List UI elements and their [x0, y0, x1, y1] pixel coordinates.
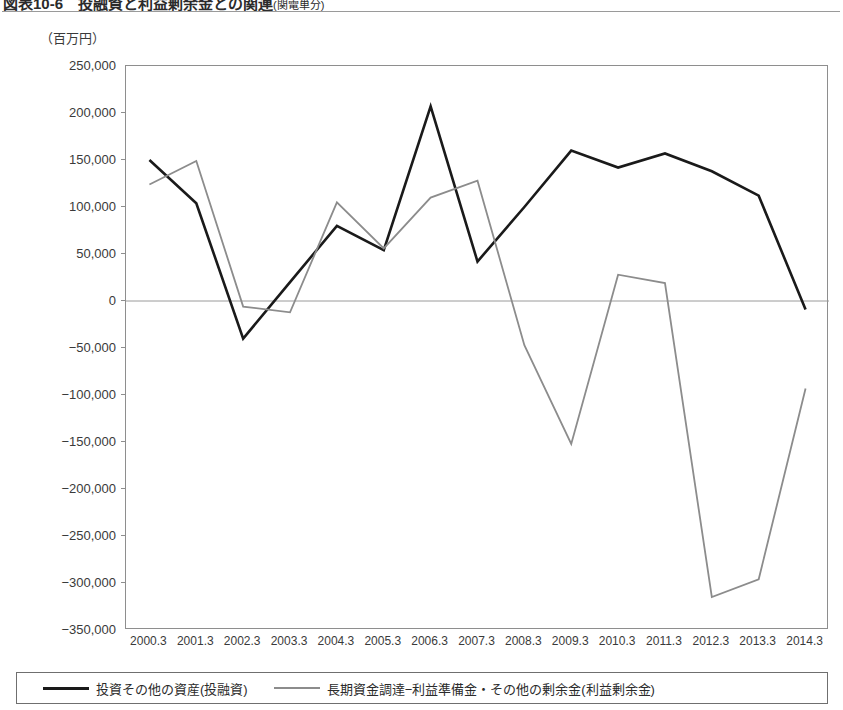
y-tick-label: 200,000	[30, 105, 116, 120]
chart-lines	[126, 66, 829, 630]
plot-area	[125, 65, 828, 629]
y-tick-label: −100,000	[30, 387, 116, 402]
y-tick-label: 50,000	[30, 246, 116, 261]
figure-title-strip: 図表10-6 投融資と利益剰余金との関連(関電単分)	[0, 0, 843, 11]
page-title: 図表10-6 投融資と利益剰余金との関連(関電単分)	[3, 0, 324, 11]
x-tick-label: 2000.3	[130, 634, 167, 648]
y-tick-label: 0	[30, 293, 116, 308]
y-tick-label: 150,000	[30, 152, 116, 167]
y-tick-label: −150,000	[30, 434, 116, 449]
series-line-1	[149, 161, 805, 597]
x-tick-label: 2001.3	[177, 634, 214, 648]
x-tick-label: 2006.3	[411, 634, 448, 648]
chart-legend: 投資その他の資産(投融資) 長期資金調達−利益準備金・その他の剰余金(利益剰余金…	[16, 672, 828, 704]
y-axis-unit-label: （百万円）	[40, 28, 105, 47]
x-tick-label: 2004.3	[318, 634, 355, 648]
x-tick-label: 2010.3	[599, 634, 636, 648]
x-tick-label: 2003.3	[271, 634, 308, 648]
x-tick-label: 2013.3	[739, 634, 776, 648]
legend-item-1: 長期資金調達−利益準備金・その他の剰余金(利益剰余金)	[274, 679, 655, 698]
legend-line-swatch-investment	[43, 687, 89, 690]
y-tick-label: 100,000	[30, 199, 116, 214]
x-tick-label: 2008.3	[505, 634, 542, 648]
x-tick-label: 2007.3	[458, 634, 495, 648]
legend-label-1: 長期資金調達−利益準備金・その他の剰余金(利益剰余金)	[327, 679, 655, 698]
figure-container: 図表10-6 投融資と利益剰余金との関連(関電単分) （百万円） 250,000…	[0, 0, 843, 710]
x-tick-label: 2014.3	[786, 634, 823, 648]
y-tick-label: −50,000	[30, 340, 116, 355]
y-tick-label: −300,000	[30, 575, 116, 590]
legend-label-0: 投資その他の資産(投融資)	[96, 679, 248, 698]
x-tick-label: 2012.3	[692, 634, 729, 648]
y-tick-label: −200,000	[30, 481, 116, 496]
legend-line-swatch-retained-earnings	[274, 687, 320, 689]
x-tick-label: 2009.3	[552, 634, 589, 648]
y-tick-label: −250,000	[30, 528, 116, 543]
series-line-0	[149, 106, 805, 338]
y-tick-label: 250,000	[30, 58, 116, 73]
x-tick-label: 2005.3	[364, 634, 401, 648]
title-divider	[2, 11, 840, 12]
x-tick-label: 2002.3	[224, 634, 261, 648]
x-tick-label: 2011.3	[646, 634, 682, 648]
y-tick-label: −350,000	[30, 622, 116, 637]
legend-item-0: 投資その他の資産(投融資)	[43, 679, 248, 698]
